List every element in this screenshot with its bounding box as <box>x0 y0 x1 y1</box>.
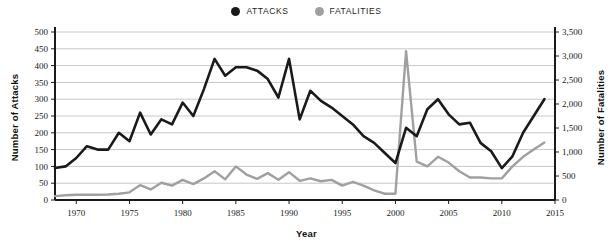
svg-text:1970: 1970 <box>67 208 86 218</box>
svg-text:3,500: 3,500 <box>562 27 583 37</box>
svg-text:2,500: 2,500 <box>562 75 583 85</box>
y-axis-right-ticks: 05001,0001,5002,0002,5003,0003,500 <box>555 27 583 205</box>
svg-text:150: 150 <box>35 145 49 155</box>
svg-text:1,500: 1,500 <box>562 123 583 133</box>
axis-lines <box>55 27 555 200</box>
y-axis-right-title: Number of Fatalities <box>595 58 606 178</box>
x-axis-title: Year <box>0 228 613 239</box>
svg-text:350: 350 <box>35 78 49 88</box>
svg-text:0: 0 <box>44 195 49 205</box>
gridlines-group <box>55 32 555 200</box>
svg-text:3,000: 3,000 <box>562 51 583 61</box>
svg-text:400: 400 <box>35 61 49 71</box>
svg-text:500: 500 <box>35 27 49 37</box>
chart-plot-area: 050100150200250300350400450500 05001,000… <box>0 0 613 251</box>
svg-text:1980: 1980 <box>174 208 193 218</box>
svg-text:450: 450 <box>35 44 49 54</box>
svg-text:250: 250 <box>35 111 49 121</box>
svg-text:2010: 2010 <box>493 208 512 218</box>
svg-text:2000: 2000 <box>386 208 405 218</box>
svg-text:200: 200 <box>35 128 49 138</box>
svg-text:1990: 1990 <box>280 208 299 218</box>
y-axis-left-title: Number of Attacks <box>9 58 20 178</box>
y-axis-left-ticks: 050100150200250300350400450500 <box>35 27 56 205</box>
svg-text:300: 300 <box>35 94 49 104</box>
terrorism-trend-chart: ATTACKS FATALITIES Number of Attacks Num… <box>0 0 613 251</box>
x-axis-ticks: 1970197519801985199019952000200520102015 <box>67 200 564 218</box>
data-series-group <box>55 51 544 196</box>
svg-text:2015: 2015 <box>546 208 565 218</box>
svg-text:2005: 2005 <box>440 208 459 218</box>
svg-text:1,000: 1,000 <box>562 147 583 157</box>
svg-text:1985: 1985 <box>227 208 246 218</box>
series-line-attacks <box>55 59 544 168</box>
svg-text:0: 0 <box>562 195 567 205</box>
svg-text:500: 500 <box>562 171 576 181</box>
svg-text:1995: 1995 <box>333 208 352 218</box>
svg-text:2,000: 2,000 <box>562 99 583 109</box>
svg-text:1975: 1975 <box>120 208 139 218</box>
svg-text:50: 50 <box>39 178 49 188</box>
svg-text:100: 100 <box>35 162 49 172</box>
